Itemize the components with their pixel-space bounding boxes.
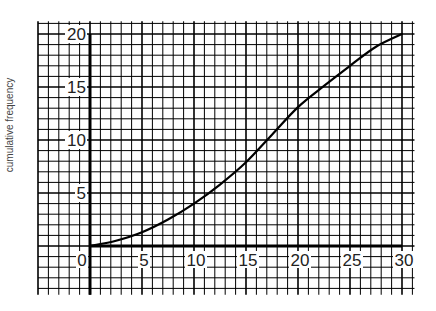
x-tick-label: 20 — [291, 251, 310, 270]
x-tick-label: 5 — [139, 251, 148, 270]
y-tick-label: 15 — [67, 78, 86, 97]
x-tick-label: 30 — [395, 251, 414, 270]
y-axis-label-text: cumulative frequency — [4, 78, 15, 173]
cumulative-frequency-chart: 051015202530 5101520 — [0, 0, 436, 311]
x-tick-label: 25 — [343, 251, 362, 270]
y-tick-label: 10 — [67, 131, 86, 150]
y-tick-label: 20 — [67, 25, 86, 44]
y-tick-labels: 5101520 — [65, 25, 87, 203]
y-axis-label: cumulative frequency — [1, 0, 17, 311]
x-tick-label: 10 — [187, 251, 206, 270]
y-tick-label: 5 — [77, 184, 86, 203]
x-tick-label: 15 — [239, 251, 258, 270]
x-tick-label: 0 — [77, 251, 86, 270]
